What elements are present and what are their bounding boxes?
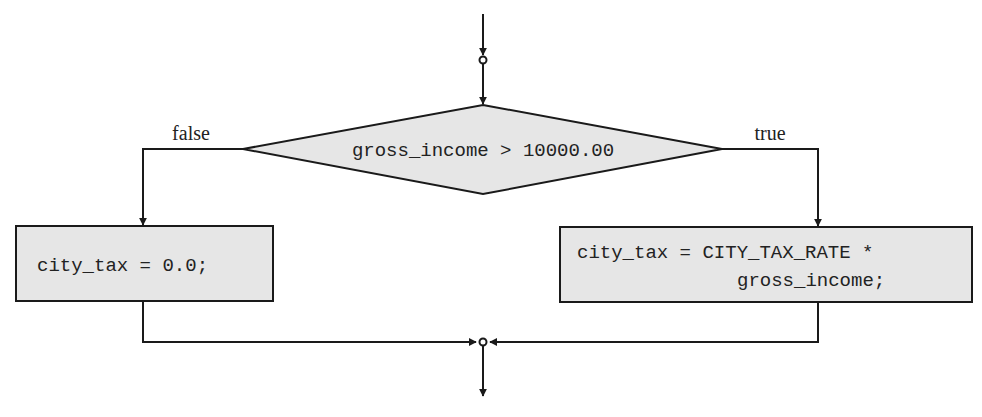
true-action-text-line1: city_tax = CITY_TAX_RATE * [577, 242, 873, 264]
false-branch: false [143, 122, 243, 225]
merge-paths [143, 301, 818, 396]
entry-connector-icon [480, 57, 487, 64]
true-action-node: city_tax = CITY_TAX_RATE * gross_income; [560, 227, 972, 302]
false-label: false [172, 122, 210, 144]
false-action-text: city_tax = 0.0; [37, 255, 208, 277]
true-action-text-line2: gross_income; [737, 270, 885, 292]
true-label: true [754, 122, 785, 144]
merge-connector-icon [480, 339, 487, 346]
entry-arrow [480, 14, 487, 104]
false-action-node: city_tax = 0.0; [16, 226, 273, 301]
decision-condition: gross_income > 10000.00 [352, 140, 614, 162]
true-branch: true [722, 122, 818, 226]
flowchart-diagram: gross_income > 10000.00 false true city_… [0, 0, 982, 417]
decision-node: gross_income > 10000.00 [243, 105, 722, 194]
